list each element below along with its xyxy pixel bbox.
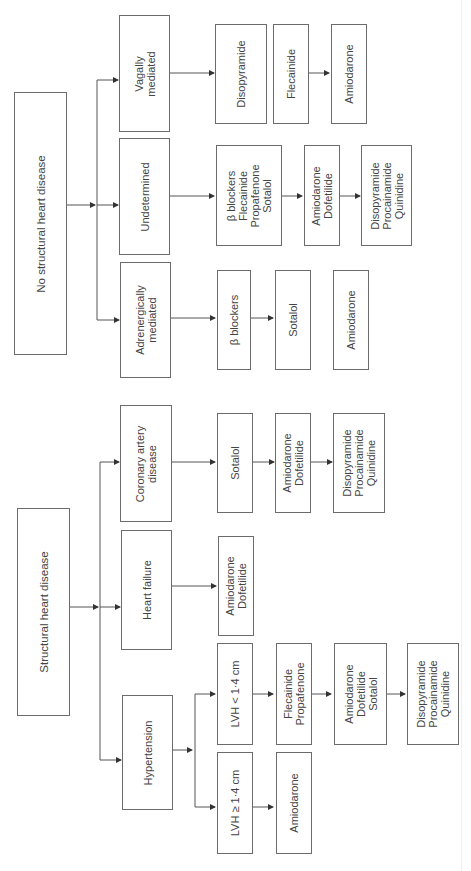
node-label: Amiodarone Dofetilide bbox=[310, 166, 334, 225]
node-structural-heart-disease: Structural heart disease bbox=[17, 508, 70, 716]
node-label: β blockers bbox=[228, 295, 240, 345]
node-lvh-greater-equal: LVH ≥ 1·4 cm bbox=[217, 752, 253, 854]
node-label: Amiodarone Dofetilide Sotalol bbox=[343, 664, 379, 723]
node-vagal-amiodarone: Amiodarone bbox=[331, 24, 367, 124]
node-lvh-less-than: LVH < 1·4 cm bbox=[217, 643, 253, 745]
node-label: Heart failure bbox=[141, 560, 153, 620]
node-label: Flecainide bbox=[285, 49, 297, 99]
node-label: Disopyramide Procainamide Quinidine bbox=[341, 429, 377, 496]
node-vagal-flecainide: Flecainide bbox=[273, 24, 309, 124]
node-undetermined-step2: Amiodarone Dofetilide bbox=[304, 145, 340, 246]
node-label: Disopyramide Procainamide Quinidine bbox=[369, 162, 405, 229]
node-label: Flecainide Propafenone bbox=[282, 663, 306, 726]
node-label: Structural heart disease bbox=[38, 551, 50, 672]
node-label: Amiodarone bbox=[288, 773, 300, 832]
node-label: Disopyramide bbox=[235, 40, 247, 107]
node-label: Sotalol bbox=[287, 303, 299, 337]
node-vagal-disopyramide: Disopyramide bbox=[215, 24, 267, 124]
node-lvh-lt-step2: Amiodarone Dofetilide Sotalol bbox=[334, 643, 387, 745]
node-label: Amiodarone Dofetilide bbox=[281, 433, 305, 492]
node-adrenergic-beta-blockers: β blockers bbox=[217, 270, 251, 370]
node-coronary-artery-disease: Coronary artery disease bbox=[120, 405, 172, 522]
node-cad-step3: Disopyramide Procainamide Quinidine bbox=[333, 413, 385, 513]
node-hypertension: Hypertension bbox=[122, 695, 173, 810]
node-label: No structural heart disease bbox=[35, 155, 47, 292]
node-adrenergic-sotalol: Sotalol bbox=[275, 270, 311, 370]
node-lvh-lt-step3: Disopyramide Procainamide Quinidine bbox=[407, 643, 459, 745]
node-cad-sotalol: Sotalol bbox=[217, 413, 253, 513]
node-label: Sotalol bbox=[229, 446, 241, 480]
node-adrenergic-amiodarone: Amiodarone bbox=[333, 270, 369, 370]
flowchart: No structural heart disease Vagally medi… bbox=[0, 0, 471, 871]
node-no-structural-heart-disease: No structural heart disease bbox=[14, 92, 67, 355]
node-label: Adrenergically mediated bbox=[134, 285, 158, 355]
node-label: Vagally mediated bbox=[133, 51, 157, 96]
node-label: LVH ≥ 1·4 cm bbox=[229, 770, 241, 836]
node-hf-step1: Amiodarone Dofetilide bbox=[218, 536, 254, 636]
node-label: Amiodarone bbox=[343, 44, 355, 103]
node-label: Amiodarone bbox=[345, 290, 357, 349]
node-label: LVH < 1·4 cm bbox=[229, 661, 241, 728]
node-label: Hypertension bbox=[142, 720, 154, 785]
node-adrenergically-mediated: Adrenergically mediated bbox=[120, 262, 171, 378]
node-label: β blockers Flecainide Propafenone Sotalo… bbox=[225, 164, 273, 227]
node-undetermined: Undetermined bbox=[119, 138, 170, 255]
node-label: Undetermined bbox=[139, 162, 151, 231]
node-vagally-mediated: Vagally mediated bbox=[119, 15, 170, 132]
node-label: Coronary artery disease bbox=[134, 425, 158, 501]
node-undetermined-step1: β blockers Flecainide Propafenone Sotalo… bbox=[216, 145, 282, 246]
node-heart-failure: Heart failure bbox=[121, 530, 172, 650]
node-label: Amiodarone Dofetilide bbox=[224, 556, 248, 615]
node-lvh-ge-amiodarone: Amiodarone bbox=[276, 752, 312, 854]
node-label: Disopyramide Procainamide Quinidine bbox=[415, 660, 451, 727]
node-cad-step2: Amiodarone Dofetilide bbox=[275, 413, 311, 513]
node-lvh-lt-step1: Flecainide Propafenone bbox=[276, 643, 312, 745]
node-undetermined-step3: Disopyramide Procainamide Quinidine bbox=[361, 145, 412, 246]
